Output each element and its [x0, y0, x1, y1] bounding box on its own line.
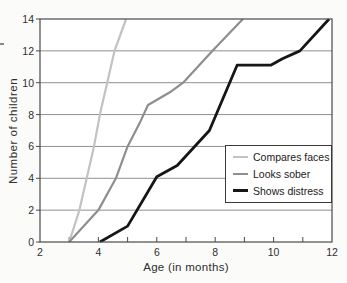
- x-axis-title: Age (in months): [143, 261, 229, 273]
- y-tick-label: 0: [28, 236, 34, 248]
- plot-background: [40, 19, 332, 242]
- scan-artifact-mark: [0, 43, 4, 45]
- shows-distress-line-swatch: [233, 189, 248, 192]
- x-tick-label: 10: [268, 246, 280, 258]
- y-tick-label: 12: [22, 45, 34, 57]
- x-tick-label: 6: [154, 246, 160, 258]
- x-tick-label: 2: [37, 246, 43, 258]
- legend: Compares faces Looks sober Shows distres…: [225, 145, 332, 203]
- legend-label: Compares faces: [253, 151, 329, 163]
- y-tick-label: 14: [22, 13, 34, 25]
- looks-sober-line-swatch: [233, 173, 248, 175]
- chart-plot-area: [0, 0, 347, 283]
- y-tick-label: 2: [28, 204, 34, 216]
- x-tick-label: 4: [95, 246, 101, 258]
- x-tick-label: 8: [212, 246, 218, 258]
- y-tick-label: 10: [22, 77, 34, 89]
- y-tick-label: 6: [28, 140, 34, 152]
- legend-label: Looks sober: [253, 168, 310, 180]
- legend-item-compares-faces: Compares faces: [233, 149, 331, 165]
- y-axis-title: Number of children: [7, 78, 19, 184]
- legend-item-shows-distress: Shows distress: [233, 183, 331, 199]
- compares-faces-line-swatch: [233, 156, 248, 158]
- legend-item-looks-sober: Looks sober: [233, 166, 331, 182]
- y-tick-label: 8: [28, 109, 34, 121]
- y-tick-label: 4: [28, 172, 34, 184]
- figure: Number of children Age (in months) 02468…: [0, 0, 347, 283]
- legend-label: Shows distress: [253, 185, 324, 197]
- x-tick-label: 12: [326, 246, 338, 258]
